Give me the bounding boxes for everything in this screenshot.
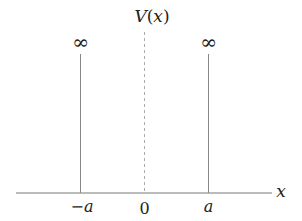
y-axis-label: V(x) bbox=[134, 6, 169, 26]
x-axis-label: x bbox=[276, 181, 286, 201]
right-wall-height-label: ∞ bbox=[200, 30, 217, 54]
left-wall-height-label: ∞ bbox=[72, 30, 89, 54]
infinite-well-diagram: V(x) ∞ ∞ −a 0 a x bbox=[0, 0, 302, 221]
right-wall-position-label: a bbox=[204, 197, 214, 216]
origin-label: 0 bbox=[139, 199, 149, 218]
left-wall-position-label: −a bbox=[71, 197, 94, 216]
